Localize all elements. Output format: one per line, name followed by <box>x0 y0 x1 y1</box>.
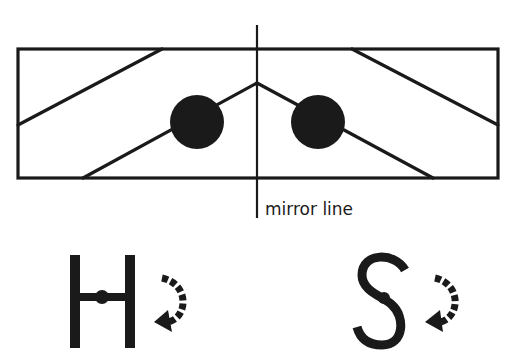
h-pivot-dot <box>95 290 109 304</box>
left-inner-line <box>83 83 257 178</box>
right-dot <box>291 95 345 149</box>
mirror-line-label: mirror line <box>265 199 353 219</box>
left-dot <box>170 95 224 149</box>
h-arrowhead-icon <box>154 310 172 332</box>
s-arrowhead-icon <box>425 310 443 332</box>
s-pivot-dot <box>378 292 390 304</box>
right-inner-line <box>257 83 433 178</box>
letter-h <box>70 255 135 348</box>
symmetry-diagram: mirror line <box>0 0 517 361</box>
right-diagonal <box>352 49 498 125</box>
left-diagonal <box>18 49 162 125</box>
